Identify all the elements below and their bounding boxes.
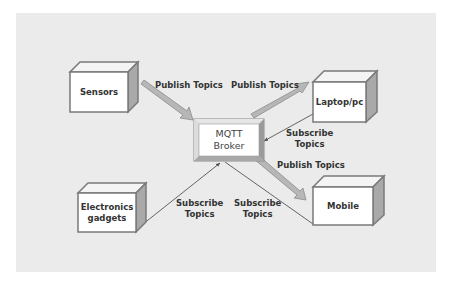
- edge-label-line2: Topics: [176, 209, 223, 220]
- edge-label-laptop-subscribe: Subscribe Topics: [286, 128, 333, 150]
- laptop-label-text: Laptop/pc: [316, 97, 363, 108]
- sensors-label: Sensors: [70, 72, 128, 112]
- edge-label-mobile-publish: Publish Topics: [277, 160, 345, 171]
- edge-label-line1: Subscribe: [176, 198, 223, 209]
- electronics-label: Electronics gadgets: [78, 193, 136, 232]
- edge-label-laptop-publish: Publish Topics: [231, 80, 299, 91]
- mobile-label: Mobile: [313, 187, 373, 225]
- sensors-label-text: Sensors: [80, 87, 118, 98]
- edge-label-line2: Topics: [286, 139, 333, 150]
- edge-label-text: Publish Topics: [231, 80, 299, 90]
- edge-label-sensors-publish: Publish Topics: [155, 80, 223, 91]
- broker-label-line2: Broker: [214, 140, 245, 152]
- edge-label-text: Publish Topics: [277, 160, 345, 170]
- mobile-label-text: Mobile: [327, 201, 359, 212]
- broker-label-line1: MQTT: [215, 128, 242, 140]
- edge-label-mobile-subscribe: Subscribe Topics: [234, 198, 281, 220]
- electronics-label-line2: gadgets: [88, 213, 127, 224]
- edge-label-electronics-subscribe: Subscribe Topics: [176, 198, 223, 220]
- edge-label-line1: Subscribe: [234, 198, 281, 209]
- laptop-label: Laptop/pc: [313, 82, 366, 122]
- edge-label-line2: Topics: [234, 209, 281, 220]
- edge-label-text: Publish Topics: [155, 80, 223, 90]
- electronics-label-line1: Electronics: [81, 202, 134, 213]
- broker-label: MQTT Broker: [199, 124, 259, 156]
- edge-label-line1: Subscribe: [286, 128, 333, 139]
